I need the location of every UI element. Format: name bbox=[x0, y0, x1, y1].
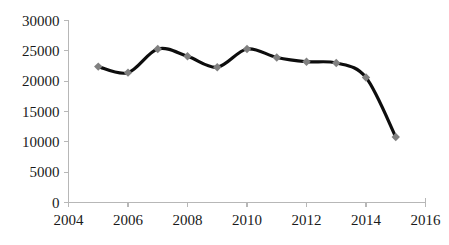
x-axis-tick-label: 2016 bbox=[411, 212, 442, 228]
x-axis-tick-label: 2010 bbox=[232, 212, 262, 228]
x-axis-tick-label: 2006 bbox=[113, 212, 144, 228]
y-axis-tick-label: 10000 bbox=[22, 134, 60, 150]
y-axis-tick-label: 0 bbox=[52, 195, 60, 211]
y-axis-tick-label: 5000 bbox=[30, 164, 60, 180]
y-axis-tick-label: 15000 bbox=[22, 104, 60, 120]
chart-canvas: 050001000015000200002500030000 200420062… bbox=[0, 0, 449, 245]
x-axis-tick-label: 2014 bbox=[351, 212, 382, 228]
x-axis-tick-label: 2008 bbox=[173, 212, 203, 228]
chart-background bbox=[0, 0, 449, 245]
line-chart: 050001000015000200002500030000 200420062… bbox=[0, 0, 449, 245]
y-axis-tick-label: 30000 bbox=[22, 13, 60, 29]
y-axis-tick-label: 20000 bbox=[22, 73, 60, 89]
x-axis-tick-label: 2012 bbox=[292, 212, 322, 228]
x-axis-tick-label: 2004 bbox=[54, 212, 85, 228]
y-axis-tick-label: 25000 bbox=[22, 43, 60, 59]
